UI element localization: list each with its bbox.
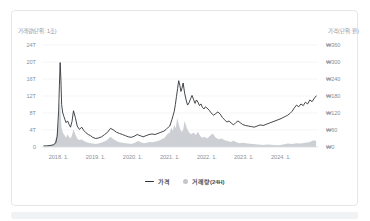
left-axis-tick-label: 24T (14, 42, 36, 48)
x-axis-tick-label: 2020. 1. (113, 154, 153, 160)
left-axis-tick-label: 20T (14, 59, 36, 65)
x-axis-tick-label: 2021. 1. (150, 154, 190, 160)
left-axis-tick-label: 0 (14, 144, 36, 150)
left-axis-tick-label: 4T (14, 127, 36, 133)
right-axis-tick-label: ₩60 (326, 127, 352, 133)
x-axis-tick-label: 2022. 1. (187, 154, 227, 160)
x-axis-tick-label: 2019. 1. (76, 154, 116, 160)
x-axis-tick-label: 2018. 1. (39, 154, 79, 160)
left-axis-caption: 거래량(단위: 1조) (18, 27, 56, 35)
right-axis-tick-label: ₩300 (326, 59, 352, 65)
legend-item-volume[interactable]: 거래량(24H) (183, 177, 224, 186)
chart-legend: 가격 거래량(24H) (0, 177, 370, 186)
dot-marker-icon (183, 179, 188, 184)
chart-screenshot: 거래량(단위: 1조) 가격(단위: 원) 04T8T12T16T20T24T … (0, 0, 370, 221)
left-axis-tick-label: 8T (14, 110, 36, 116)
x-axis-tick-label: 2024. 1. (261, 154, 301, 160)
legend-label-price: 가격 (158, 177, 170, 186)
right-axis-caption: 가격(단위: 원) (328, 27, 359, 35)
legend-label-volume: 거래량(24H) (192, 177, 224, 186)
right-axis-tick-label: ₩240 (326, 76, 352, 82)
x-axis-tick-label: 2023. 1. (224, 154, 264, 160)
right-axis-tick-label: ₩0 (326, 144, 352, 150)
right-axis-tick-label: ₩120 (326, 110, 352, 116)
left-axis-tick-label: 12T (14, 93, 36, 99)
line-marker-icon (145, 181, 154, 183)
left-axis-tick-label: 16T (14, 76, 36, 82)
right-axis-tick-label: ₩360 (326, 42, 352, 48)
legend-item-price[interactable]: 가격 (145, 177, 170, 186)
page-bottom-strip (11, 212, 358, 219)
right-axis-tick-label: ₩180 (326, 93, 352, 99)
